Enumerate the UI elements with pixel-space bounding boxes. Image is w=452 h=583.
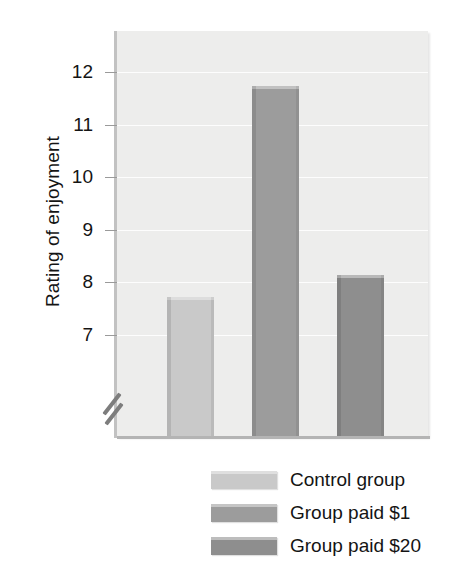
legend-label: Control group xyxy=(290,470,405,489)
tick-mark-12 xyxy=(105,72,117,73)
legend-swatch-icon xyxy=(211,471,277,489)
legend-item-1[interactable]: Control group xyxy=(211,463,421,496)
bar-1[interactable] xyxy=(167,297,214,437)
x-axis-baseline xyxy=(117,436,430,439)
legend-label: Group paid $1 xyxy=(290,503,410,522)
legend-swatch-highlight xyxy=(211,537,277,540)
bar-hl xyxy=(252,86,299,89)
bar-hl xyxy=(167,297,214,300)
y-tick-label-7: 7 xyxy=(47,325,93,344)
bar-face xyxy=(167,297,214,437)
y-tick-label-11: 11 xyxy=(47,115,93,134)
y-tick-label-9: 9 xyxy=(47,220,93,239)
bar-edge-r xyxy=(381,275,384,437)
bar-edge-l xyxy=(337,275,341,437)
bar-chart-figure: Rating of enjoyment 121110987 Control gr… xyxy=(0,0,452,583)
plot-inner xyxy=(117,31,428,437)
tick-mark-7 xyxy=(105,335,117,336)
legend-item-2[interactable]: Group paid $1 xyxy=(211,496,421,529)
legend-swatch-highlight xyxy=(211,504,277,507)
y-tick-label-10: 10 xyxy=(47,167,93,186)
bar-edge-l xyxy=(252,86,256,437)
bar-edge-l xyxy=(167,297,171,437)
y-tick-label-12: 12 xyxy=(47,62,93,81)
bar-edge-r xyxy=(211,297,214,437)
tick-mark-9 xyxy=(105,230,117,231)
gridline-12 xyxy=(117,72,428,73)
tick-mark-8 xyxy=(105,282,117,283)
bar-3[interactable] xyxy=(337,275,384,437)
bar-hl xyxy=(337,275,384,278)
legend-label: Group paid $20 xyxy=(290,536,421,555)
tick-mark-11 xyxy=(105,125,117,126)
bar-face xyxy=(252,86,299,437)
bar-2[interactable] xyxy=(252,86,299,437)
legend-item-3[interactable]: Group paid $20 xyxy=(211,529,421,562)
legend-swatch-icon xyxy=(211,504,277,522)
y-tick-label-8: 8 xyxy=(47,272,93,291)
legend: Control groupGroup paid $1Group paid $20 xyxy=(211,463,421,562)
axis-break-icon xyxy=(97,386,131,424)
plot-area xyxy=(117,31,428,437)
legend-swatch-highlight xyxy=(211,471,277,474)
tick-mark-10 xyxy=(105,177,117,178)
legend-swatch-icon xyxy=(211,537,277,555)
bar-face xyxy=(337,275,384,437)
bar-edge-r xyxy=(296,86,299,437)
